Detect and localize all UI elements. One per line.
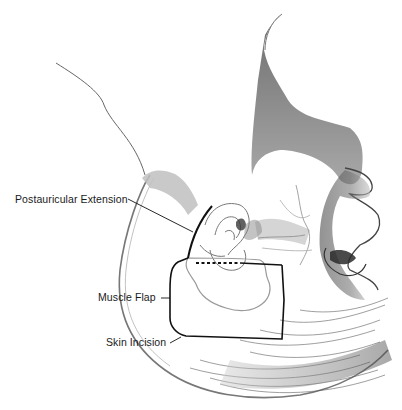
postauricular-incision — [188, 206, 212, 258]
hair-shading — [220, 340, 392, 389]
label-postauricular-extension: Postauricular Extension — [15, 193, 128, 205]
cheek-line-2 — [280, 200, 310, 218]
pre-ear-shading — [255, 219, 310, 245]
surgical-illustration: Postauricular Extension Muscle Flap Skin… — [0, 0, 402, 410]
neck-shading — [252, 15, 363, 184]
pre-ear-line-2 — [262, 248, 312, 251]
nostril — [330, 250, 356, 264]
face-shading — [320, 170, 371, 300]
skin-leader — [170, 337, 181, 343]
hair-tuft — [142, 171, 198, 215]
label-skin-incision: Skin Incision — [106, 336, 166, 348]
shoulder-line — [56, 63, 145, 175]
illustration-drawing — [0, 0, 402, 410]
muscle-flap-outline — [186, 258, 270, 311]
ear-canal — [236, 219, 246, 231]
label-muscle-flap: Muscle Flap — [98, 291, 156, 303]
upper-incision — [240, 263, 282, 265]
